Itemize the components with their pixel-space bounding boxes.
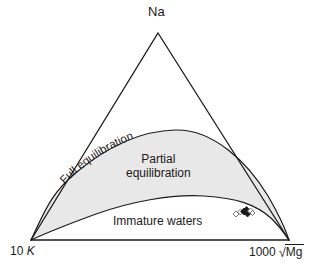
left-corner-label: 10 K <box>10 244 35 258</box>
left-corner-variable: K <box>27 244 35 258</box>
ternary-diagram-plot: Full equilibration <box>0 0 333 276</box>
immature-waters-label: Immature waters <box>113 214 202 228</box>
sample-markers-group <box>233 207 255 218</box>
right-corner-value: 1000 <box>249 245 276 259</box>
figure-container: Full equilibration <box>0 0 333 276</box>
right-corner-variable: Mg <box>285 244 304 259</box>
apex-label-na: Na <box>148 4 165 19</box>
radical-sign: √ <box>279 245 286 260</box>
sqrt-icon: √Mg <box>279 244 304 259</box>
left-corner-value: 10 <box>10 244 23 258</box>
partial-equilibration-label-line2: equilibration <box>126 166 191 180</box>
partial-equilibration-label: Partial equilibration <box>126 152 191 180</box>
right-corner-label: 1000√Mg <box>249 244 304 259</box>
partial-equilibration-label-line1: Partial <box>126 152 191 166</box>
